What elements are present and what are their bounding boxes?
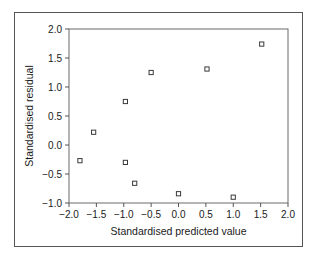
plot-canvas: −2.0−1.5−1.0−0.50.00.51.01.52.0 −1.0−0.5… — [0, 0, 317, 259]
x-tick-label: −0.5 — [141, 209, 161, 220]
y-tick-label: 1.5 — [48, 53, 62, 64]
scatter-plot-figure: −2.0−1.5−1.0−0.50.00.51.01.52.0 −1.0−0.5… — [0, 0, 317, 259]
y-axis-title: Standardised residual — [23, 65, 35, 167]
x-tick-label: −2.0 — [59, 209, 79, 220]
y-axis-ticks — [65, 29, 69, 203]
y-tick-label: −1.0 — [42, 198, 62, 209]
y-tick-label: 1.0 — [48, 82, 62, 93]
x-tick-label: 1.5 — [254, 209, 268, 220]
x-tick-label: 0.5 — [199, 209, 213, 220]
x-tick-label: −1.5 — [87, 209, 107, 220]
x-tick-label: −1.0 — [114, 209, 134, 220]
plot-frame — [69, 29, 288, 203]
x-axis-ticks — [69, 203, 288, 207]
axes-box — [69, 29, 288, 203]
x-tick-label: 0.0 — [172, 209, 186, 220]
x-axis-title: Standardised predicted value — [110, 225, 246, 237]
y-axis-tick-labels: −1.0−0.50.00.51.01.52.0 — [42, 24, 62, 209]
y-tick-label: −0.5 — [42, 169, 62, 180]
x-tick-label: 1.0 — [226, 209, 240, 220]
y-tick-label: 2.0 — [48, 24, 62, 35]
y-tick-label: 0.5 — [48, 111, 62, 122]
y-tick-label: 0.0 — [48, 140, 62, 151]
x-tick-label: 2.0 — [281, 209, 295, 220]
x-axis-tick-labels: −2.0−1.5−1.0−0.50.00.51.01.52.0 — [59, 209, 295, 220]
